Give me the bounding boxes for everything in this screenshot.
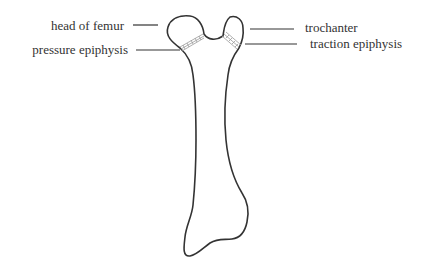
traction-epiphysis-hatch: [222, 32, 241, 49]
label-head-of-femur: head of femur: [51, 19, 124, 32]
label-traction-epiphysis: traction epiphysis: [310, 37, 402, 50]
pressure-epiphysis-hatch: [180, 34, 204, 51]
femur-outline: [167, 16, 248, 256]
label-trochanter: trochanter: [305, 21, 358, 34]
label-pressure-epiphysis: pressure epiphysis: [32, 43, 128, 56]
